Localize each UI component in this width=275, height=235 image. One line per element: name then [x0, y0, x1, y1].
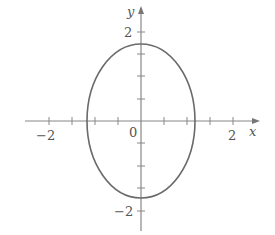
y-tick-label-neg2: −2	[114, 204, 133, 219]
x-axis-label: x	[249, 124, 257, 139]
y-tick-label-2: 2	[124, 25, 132, 40]
y-axis-label: y	[126, 4, 135, 19]
origin-label: 0	[129, 125, 137, 140]
x-tick-label-2: 2	[228, 128, 236, 143]
ellipse-diagram: −2 2 0 x 2 −2 y	[0, 0, 275, 235]
x-tick-label-neg2: −2	[36, 128, 55, 143]
